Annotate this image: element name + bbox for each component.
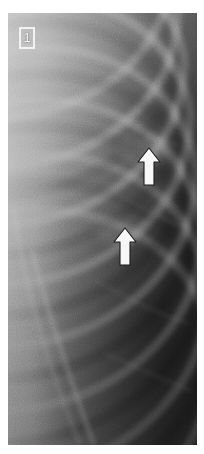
chest-xray-image: 1 [8,13,197,445]
figure-root: 1 [0,0,204,454]
panel-label: 1 [19,27,35,49]
panel-label-text: 1 [23,30,30,45]
xray-render-surface [8,13,197,445]
exposure-vertical-grade [8,13,197,445]
